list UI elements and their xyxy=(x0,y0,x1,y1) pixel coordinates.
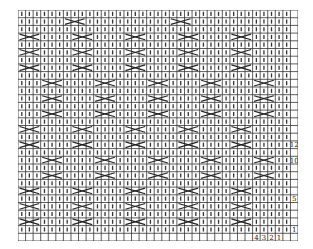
row-number-label: 5 xyxy=(292,195,296,203)
column-number-label: 4 xyxy=(254,234,259,241)
knitting-chart-grid: 1510124321 xyxy=(18,10,298,241)
column-number-label: 3 xyxy=(262,234,266,241)
row-number-label: 12 xyxy=(290,141,298,149)
column-number-label: 2 xyxy=(269,234,273,241)
row-number-label: 1 xyxy=(292,226,296,234)
column-number-label: 1 xyxy=(277,234,281,241)
row-number-label: 10 xyxy=(290,157,298,165)
chart-canvas: 1510124321 xyxy=(18,10,298,241)
